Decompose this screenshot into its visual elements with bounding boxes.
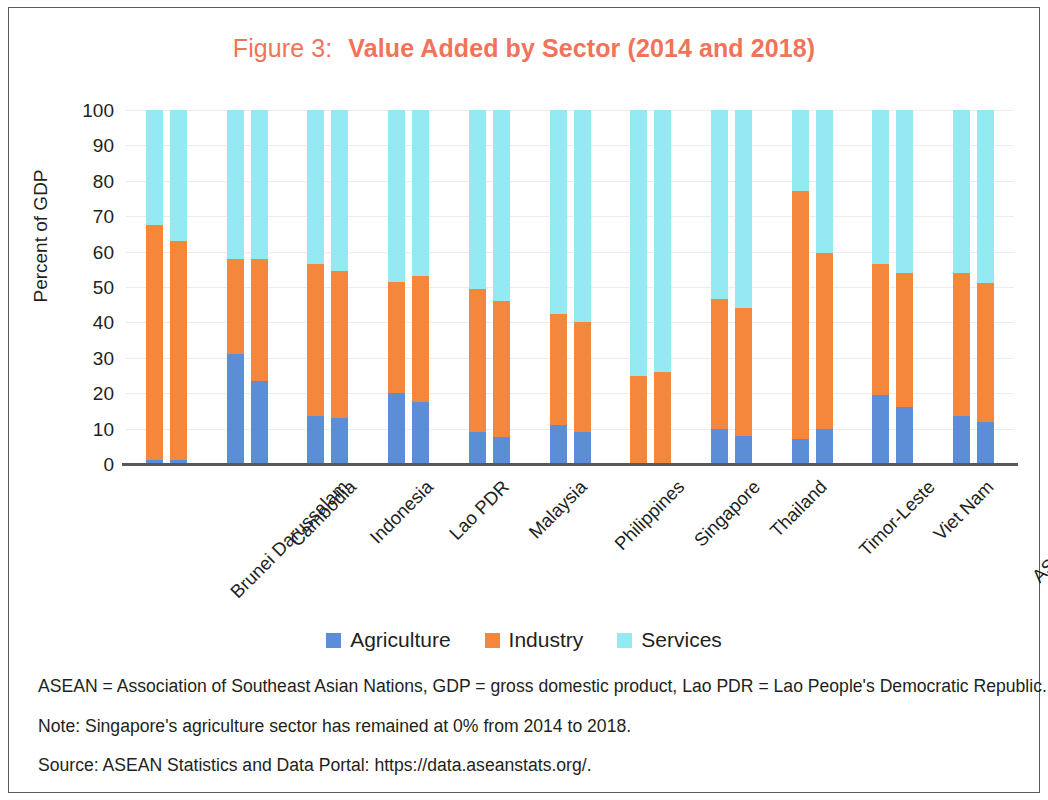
y-axis-tick: 40 [54, 313, 114, 332]
y-axis-title: Percent of GDP [30, 136, 52, 336]
legend-item[interactable]: Services [617, 628, 722, 652]
bar-group [469, 110, 510, 464]
stacked-bar[interactable] [977, 110, 994, 464]
bar-group [792, 110, 833, 464]
bar-segment-agriculture [550, 425, 567, 464]
stacked-bar[interactable] [735, 110, 752, 464]
bar-segment-agriculture [331, 418, 348, 464]
bar-segment-services [977, 110, 994, 283]
note-singapore: Note: Singapore's agriculture sector has… [38, 718, 1028, 736]
stacked-bar[interactable] [654, 110, 671, 464]
note-abbreviations: ASEAN = Association of Southeast Asian N… [38, 678, 1028, 696]
stacked-bar[interactable] [792, 110, 809, 464]
bar-segment-services [630, 110, 647, 376]
legend-item[interactable]: Agriculture [326, 628, 450, 652]
bar-segment-services [953, 110, 970, 273]
stacked-bar[interactable] [872, 110, 889, 464]
bar-segment-services [735, 110, 752, 308]
bar-segment-services [469, 110, 486, 289]
legend-item[interactable]: Industry [485, 628, 584, 652]
note-source: Source: ASEAN Statistics and Data Portal… [38, 757, 1028, 775]
bar-segment-agriculture [872, 395, 889, 464]
bar-segment-industry [307, 264, 324, 416]
bar-segment-industry [227, 259, 244, 355]
figure-page: Figure 3:Value Added by Sector (2014 and… [0, 0, 1048, 800]
stacked-bar[interactable] [630, 110, 647, 464]
bar-segment-agriculture [896, 407, 913, 464]
bar-segment-services [654, 110, 671, 372]
stacked-bar[interactable] [550, 110, 567, 464]
legend-swatch-icon [326, 633, 341, 648]
stacked-bar[interactable] [493, 110, 510, 464]
bar-segment-services [227, 110, 244, 259]
y-axis-tick: 90 [54, 136, 114, 155]
bar-segment-services [792, 110, 809, 191]
x-axis-label: Lao PDR [445, 476, 514, 545]
x-axis-label: Philippines [610, 476, 689, 555]
bar-segment-industry [493, 301, 510, 437]
y-axis-tick: 50 [54, 278, 114, 297]
bar-segment-agriculture [469, 432, 486, 464]
stacked-bar[interactable] [711, 110, 728, 464]
stacked-bar[interactable] [388, 110, 405, 464]
bar-segment-services [574, 110, 591, 322]
x-axis-label: Malaysia [525, 476, 592, 543]
bar-segment-industry [711, 299, 728, 428]
bar-segment-industry [630, 376, 647, 465]
bar-segment-agriculture [388, 393, 405, 464]
bar-segment-services [896, 110, 913, 273]
legend-label: Agriculture [350, 628, 450, 652]
bar-group [388, 110, 429, 464]
stacked-bar[interactable] [469, 110, 486, 464]
bar-segment-industry [574, 322, 591, 432]
bar-segment-services [412, 110, 429, 276]
stacked-bar[interactable] [307, 110, 324, 464]
bar-segment-services [251, 110, 268, 259]
stacked-bar[interactable] [331, 110, 348, 464]
stacked-bar[interactable] [896, 110, 913, 464]
bar-segment-industry [872, 264, 889, 395]
bar-segment-agriculture [735, 436, 752, 464]
bar-group [146, 110, 187, 464]
bar-segment-industry [896, 273, 913, 408]
stacked-bar[interactable] [227, 110, 244, 464]
stacked-bar[interactable] [170, 110, 187, 464]
bar-segment-industry [170, 241, 187, 460]
bar-segment-agriculture [792, 439, 809, 464]
bar-segment-agriculture [953, 416, 970, 464]
stacked-bar[interactable] [574, 110, 591, 464]
bar-segment-services [331, 110, 348, 271]
chart-legend: AgricultureIndustryServices [0, 628, 1048, 652]
y-axis-tick: 100 [54, 101, 114, 120]
y-axis-tick: 80 [54, 171, 114, 190]
bar-segment-agriculture [574, 432, 591, 464]
bar-segment-industry [550, 314, 567, 426]
x-axis-label: Timor-Leste [855, 476, 940, 561]
stacked-bar[interactable] [816, 110, 833, 464]
bar-segment-industry [251, 259, 268, 381]
y-axis-tick: 20 [54, 384, 114, 403]
plot-area [126, 110, 1014, 464]
legend-swatch-icon [617, 633, 632, 648]
stacked-bar[interactable] [146, 110, 163, 464]
x-axis-label: Singapore [689, 476, 764, 551]
bar-group [630, 110, 671, 464]
bar-group [953, 110, 994, 464]
bar-segment-agriculture [227, 354, 244, 464]
x-axis-label: ASEAN Average [1027, 476, 1048, 587]
stacked-bar[interactable] [251, 110, 268, 464]
bar-segment-services [872, 110, 889, 264]
bar-segment-agriculture [493, 437, 510, 464]
bar-segment-services [146, 110, 163, 225]
bar-segment-services [816, 110, 833, 253]
stacked-bar[interactable] [953, 110, 970, 464]
bar-group [307, 110, 348, 464]
y-axis-tick: 60 [54, 242, 114, 261]
bar-segment-industry [331, 271, 348, 418]
bar-segment-industry [146, 225, 163, 460]
bar-segment-services [307, 110, 324, 264]
x-axis-label: Viet Nam [929, 476, 998, 545]
bar-group [227, 110, 268, 464]
stacked-bar[interactable] [412, 110, 429, 464]
bar-segment-services [711, 110, 728, 299]
